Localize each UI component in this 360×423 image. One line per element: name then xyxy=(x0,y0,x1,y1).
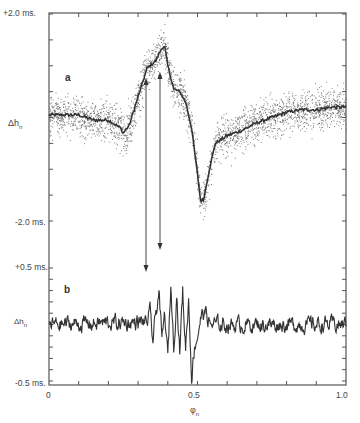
correspondence-arrows xyxy=(144,72,163,272)
y-tick-label-b-top: +0.5 ms. xyxy=(15,262,48,272)
panel-b-trace xyxy=(49,286,346,383)
x-tick-label-0: 0 xyxy=(46,390,51,400)
x-tick-label-0.5: 0.5 xyxy=(188,390,200,400)
y-tick-label-b-bottom: -0.5 ms. xyxy=(15,378,46,388)
y-axis-label-b: Δhn xyxy=(14,317,27,328)
panel-a-scatter-points xyxy=(49,25,347,220)
panel-label-b: b xyxy=(64,284,70,295)
panel-label-a: a xyxy=(65,72,71,83)
chart-figure xyxy=(0,0,360,423)
y-tick-label-a-top: +2.0 ms. xyxy=(3,8,36,18)
x-tick-label-1.0: 1.0 xyxy=(336,390,348,400)
x-axis-label: φn xyxy=(190,405,199,417)
y-tick-label-a-bottom: -2.0 ms. xyxy=(15,217,46,227)
y-axis-label-a: Δhn xyxy=(8,118,22,130)
